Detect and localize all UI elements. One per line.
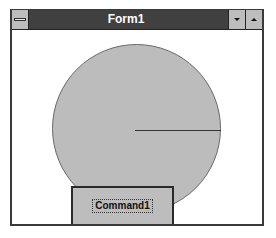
minimize-button[interactable] bbox=[228, 10, 245, 29]
minimize-arrow-icon bbox=[234, 18, 240, 21]
maximize-arrow-icon bbox=[251, 18, 257, 21]
system-menu-button[interactable] bbox=[12, 10, 29, 29]
form-client-area: Command1 bbox=[12, 30, 262, 224]
form-window: Form1 Command1 bbox=[10, 9, 264, 226]
command1-button[interactable]: Command1 bbox=[71, 186, 174, 224]
maximize-button[interactable] bbox=[245, 10, 262, 29]
command1-button-label: Command1 bbox=[92, 199, 152, 213]
title-bar[interactable]: Form1 bbox=[12, 10, 262, 30]
radius-line bbox=[135, 130, 221, 131]
window-title: Form1 bbox=[30, 10, 222, 29]
system-menu-icon bbox=[14, 18, 26, 21]
